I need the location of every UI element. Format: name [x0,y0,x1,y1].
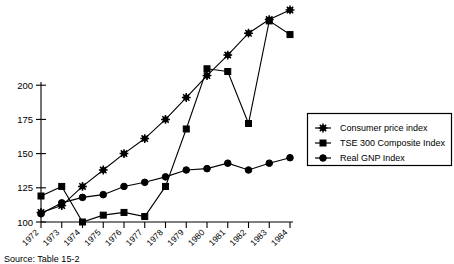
x-tick-label-1977: 1977 [124,227,145,248]
y-axis-tick-labels: 100 125 150 175 200 [17,80,33,228]
data-point-marker [140,134,149,143]
data-point-marker [204,165,211,172]
data-point-marker [266,160,273,167]
data-point-marker [120,149,129,158]
y-tick-label-200: 200 [17,80,33,91]
x-tick-label-1978: 1978 [144,227,165,248]
x-tick-label-1976: 1976 [103,227,124,248]
data-point-marker [245,167,252,174]
data-point-marker [161,115,170,124]
x-tick-label-1983: 1983 [248,227,269,248]
data-point-marker [163,183,169,189]
data-point-marker [244,29,253,38]
data-point-marker [121,209,127,215]
y-axis: 100 125 150 175 200 [17,80,46,228]
data-point-marker [246,121,252,127]
y-tick-label-175: 175 [17,114,33,125]
legend-label: TSE 300 Composite Index [340,138,446,148]
x-tick-label-1975: 1975 [82,227,103,248]
data-point-marker [225,69,231,75]
y-tick-label-150: 150 [17,148,33,159]
x-tick-label-1974: 1974 [61,227,82,248]
x-tick-label-1984: 1984 [269,227,290,248]
legend-square-icon [320,140,326,146]
data-point-marker [287,32,293,38]
data-point-marker [182,93,191,102]
x-tick-label-1981: 1981 [207,227,228,248]
data-point-marker [224,160,231,167]
x-axis-ticks [41,222,290,228]
x-axis-tick-labels: 1972197319741975197619771978197919801981… [20,227,290,248]
data-point-marker [38,193,44,199]
line-chart-svg: 100 125 150 175 200 19721973197419751976… [0,0,454,264]
series-line [41,10,290,212]
data-point-marker [162,174,169,181]
data-point-marker [59,183,65,189]
data-point-marker [38,210,45,217]
data-point-marker [287,154,294,161]
legend-star-icon [319,124,328,133]
data-point-marker [80,219,86,225]
data-point-marker [183,167,190,174]
x-tick-label-1972: 1972 [20,227,41,248]
series-layer [37,6,295,225]
legend-label: Consumer price index [340,123,428,133]
x-tick-label-1982: 1982 [227,227,248,248]
x-axis: 1972197319741975197619771978197919801981… [20,222,293,248]
x-tick-label-1973: 1973 [41,227,62,248]
legend-label: Real GNP Index [340,153,405,163]
x-tick-label-1980: 1980 [186,227,207,248]
data-point-marker [58,200,65,207]
data-point-marker [266,18,272,24]
source-note: Source: Table 15-2 [4,254,79,264]
data-point-marker [142,214,148,220]
data-point-marker [79,194,86,201]
data-point-marker [223,51,232,60]
data-point-marker [286,6,295,15]
legend-circle-icon [320,155,327,162]
data-point-marker [100,212,106,218]
data-point-marker [121,183,128,190]
chart-legend: Consumer price indexTSE 300 Composite In… [308,114,452,166]
x-tick-label-1979: 1979 [165,227,186,248]
data-point-marker [141,179,148,186]
data-point-marker [99,166,108,175]
data-point-marker [204,66,210,72]
y-tick-label-125: 125 [17,182,33,193]
data-point-marker [183,126,189,132]
data-point-marker [100,191,107,198]
y-tick-label-100: 100 [17,217,33,228]
data-point-marker [78,182,87,191]
